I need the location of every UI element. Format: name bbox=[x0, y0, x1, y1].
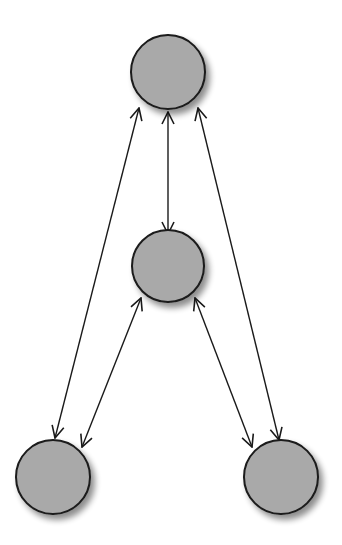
nodes bbox=[16, 35, 318, 514]
edge-middle-bottom-left bbox=[82, 298, 141, 447]
node-bottom-right bbox=[244, 440, 318, 514]
edge-top-bottom-left bbox=[55, 108, 139, 438]
edge-middle-bottom-right bbox=[195, 298, 252, 447]
node-middle bbox=[132, 230, 204, 302]
node-top bbox=[131, 35, 205, 109]
node-bottom-left bbox=[16, 440, 90, 514]
edge-top-bottom-right bbox=[198, 108, 279, 440]
network-diagram bbox=[0, 0, 342, 545]
